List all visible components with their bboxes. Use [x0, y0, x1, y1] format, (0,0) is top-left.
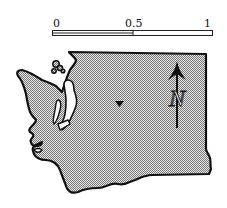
scale-bar: 0 0.5 1: [53, 17, 213, 36]
map-figure: 0 0.5 1 N: [0, 0, 227, 208]
north-label: N: [168, 85, 187, 111]
scale-tick-1: 1: [204, 17, 211, 30]
san-juan-islands: [52, 61, 65, 73]
scale-tick-0-5: 0.5: [125, 17, 143, 30]
scale-tick-0: 0: [53, 17, 60, 30]
state-outline: [17, 52, 211, 193]
grays-harbor: [34, 149, 42, 153]
